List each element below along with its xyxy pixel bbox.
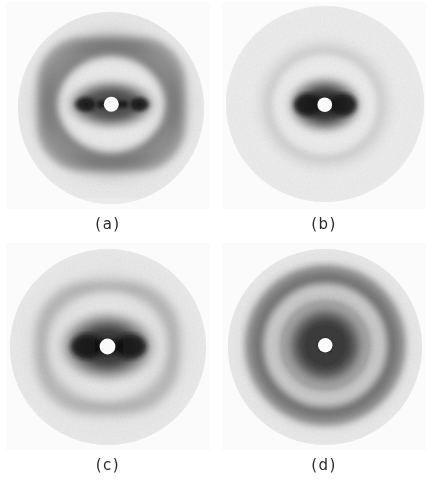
diffraction-panel-c: (c) — [0, 241, 216, 482]
panel-caption-b: (b) — [216, 215, 432, 233]
disc-wrap-d — [216, 241, 432, 453]
diffraction-image-d — [228, 249, 422, 445]
disc-wrap-a — [0, 0, 216, 212]
diffraction-image-c — [10, 249, 206, 445]
diffraction-panel-b: (b) — [216, 0, 432, 241]
diffraction-rings-b — [226, 6, 424, 202]
diffraction-image-b — [226, 6, 424, 202]
diffraction-rings-c — [10, 249, 206, 445]
panel-caption-c: (c) — [0, 456, 216, 474]
disc-wrap-c — [0, 241, 216, 453]
panel-caption-a: (a) — [0, 215, 216, 233]
disc-wrap-b — [216, 0, 432, 212]
panel-grid: (a) — [0, 0, 432, 482]
diffraction-panel-d: (d) — [216, 241, 432, 482]
diffraction-rings-d — [228, 249, 422, 445]
diffraction-image-a — [18, 12, 204, 204]
figure-root: (a) — [0, 0, 432, 482]
diffraction-rings-a — [18, 12, 204, 204]
panel-caption-d: (d) — [216, 456, 432, 474]
diffraction-panel-a: (a) — [0, 0, 216, 241]
